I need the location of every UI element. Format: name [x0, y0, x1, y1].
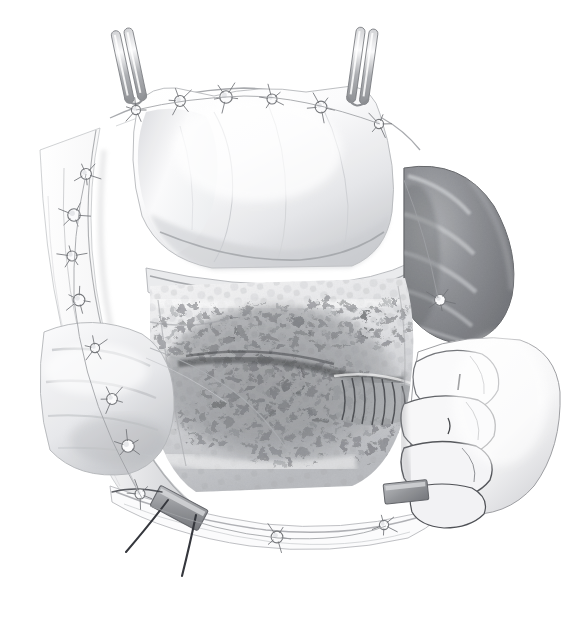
surgical-illustration-canvas [0, 0, 583, 619]
illustration-page: · · [0, 0, 583, 619]
paper-tone-overlay [0, 0, 583, 619]
